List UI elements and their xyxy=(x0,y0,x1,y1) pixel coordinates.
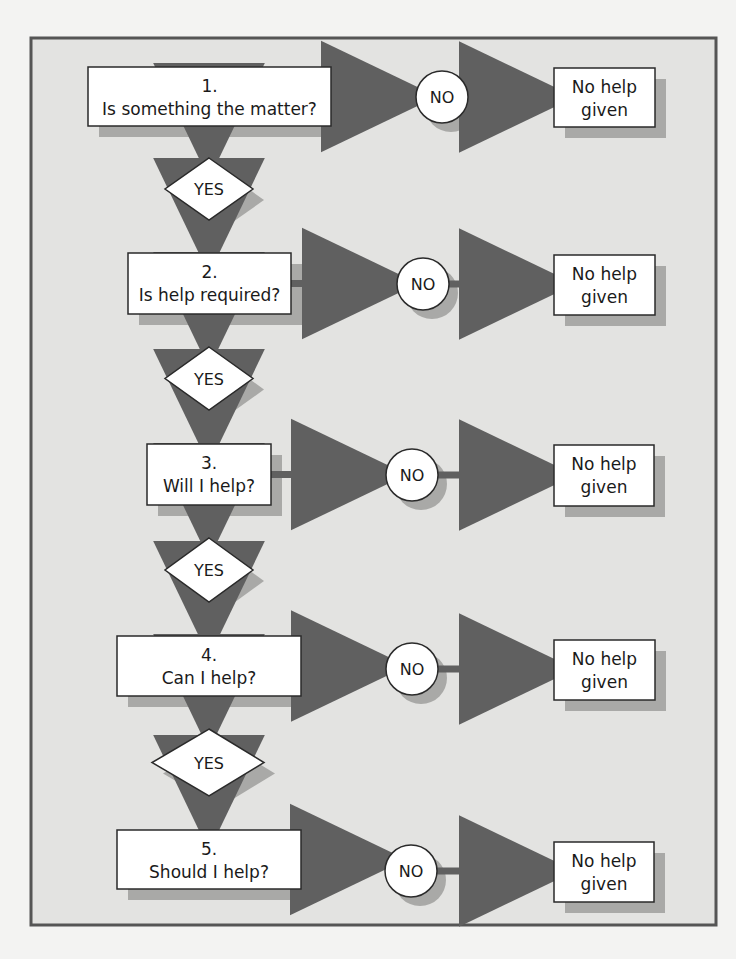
step-number: 1. xyxy=(201,76,217,96)
question-box-4: 4.Can I help? xyxy=(117,636,301,696)
step-question: Can I help? xyxy=(162,668,257,688)
outcome-line-2: given xyxy=(581,672,628,692)
step-question: Will I help? xyxy=(163,476,255,496)
outcome-line-2: given xyxy=(581,100,628,120)
no-label: NO xyxy=(411,275,436,294)
outcome-line-1: No help xyxy=(572,264,637,284)
outcome-box-4: No helpgiven xyxy=(554,640,655,700)
no-decision-5: NO xyxy=(385,845,437,897)
outcome-line-2: given xyxy=(581,874,628,894)
question-box-2: 2.Is help required? xyxy=(128,253,291,314)
yes-label: YES xyxy=(193,180,224,199)
question-box-3: 3.Will I help? xyxy=(147,444,271,505)
outcome-line-1: No help xyxy=(571,454,636,474)
outcome-line-2: given xyxy=(581,477,628,497)
outcome-box-5: No helpgiven xyxy=(554,842,654,902)
no-label: NO xyxy=(400,466,425,485)
flowchart-figure: 1.Is something the matter?NONo helpgiven… xyxy=(0,0,736,959)
yes-label: YES xyxy=(193,561,224,580)
outcome-box-3: No helpgiven xyxy=(554,445,654,506)
step-question: Should I help? xyxy=(149,862,269,882)
step-question: Is help required? xyxy=(139,285,281,305)
question-box-1: 1.Is something the matter? xyxy=(88,67,331,126)
question-box-5: 5.Should I help? xyxy=(117,830,301,889)
no-label: NO xyxy=(399,862,424,881)
step-number: 4. xyxy=(201,645,217,665)
outcome-line-1: No help xyxy=(572,77,637,97)
yes-label: YES xyxy=(193,370,224,389)
outcome-box-2: No helpgiven xyxy=(554,255,655,315)
step-number: 5. xyxy=(201,839,217,859)
step-number: 3. xyxy=(201,453,217,473)
outcome-line-2: given xyxy=(581,287,628,307)
no-label: NO xyxy=(430,88,455,107)
no-decision-2: NO xyxy=(397,258,449,310)
yes-label: YES xyxy=(193,754,224,773)
no-decision-1: NO xyxy=(416,71,468,123)
no-decision-3: NO xyxy=(386,449,438,501)
outcome-line-1: No help xyxy=(572,649,637,669)
outcome-box-1: No helpgiven xyxy=(554,68,655,127)
flowchart-canvas: 1.Is something the matter?NONo helpgiven… xyxy=(0,0,736,959)
step-number: 2. xyxy=(201,262,217,282)
no-label: NO xyxy=(400,660,425,679)
outcome-line-1: No help xyxy=(571,851,636,871)
step-question: Is something the matter? xyxy=(102,99,317,119)
no-decision-4: NO xyxy=(386,643,438,695)
